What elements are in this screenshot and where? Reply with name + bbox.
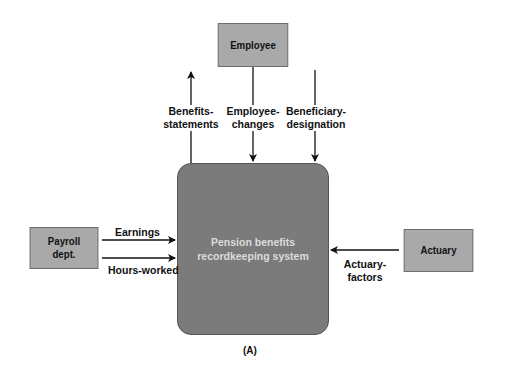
- flow-label-hours-worked: Hours-worked: [108, 264, 179, 277]
- process-label: Pension benefits recordkeeping system: [197, 235, 308, 263]
- flow-label-beneficiary-designation: Beneficiary- designation: [284, 105, 348, 131]
- flow-label-employee-changes: Employee- changes: [226, 105, 280, 131]
- pension-system-process: Pension benefits recordkeeping system: [177, 163, 329, 335]
- figure-caption: (A): [243, 345, 257, 356]
- actuary-entity: Actuary: [404, 229, 474, 272]
- actuary-label: Actuary: [420, 244, 456, 257]
- employee-label: Employee: [230, 39, 276, 52]
- payroll-entity: Payroll dept.: [30, 227, 99, 269]
- flow-label-benefits-statements: Benefits- statements: [160, 105, 222, 131]
- flow-label-earnings: Earnings: [115, 226, 160, 239]
- flow-label-actuary-factors: Actuary- factors: [340, 258, 390, 284]
- payroll-label: Payroll dept.: [48, 235, 80, 261]
- employee-entity: Employee: [218, 23, 288, 67]
